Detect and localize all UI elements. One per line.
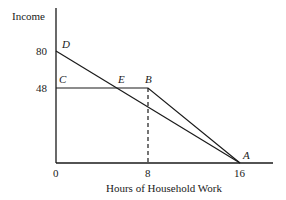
x-axis-label: Hours of Household Work: [106, 183, 222, 194]
point-label-c: C: [59, 74, 66, 85]
point-label-d: D: [62, 39, 70, 50]
y-tick-48: 48: [36, 83, 47, 94]
x-tick-8: 8: [145, 168, 151, 179]
y-tick-80: 80: [36, 46, 47, 57]
point-label-b: B: [145, 74, 152, 85]
x-tick-0: 0: [53, 168, 59, 179]
y-axis-label: Income: [12, 11, 45, 22]
point-label-e: E: [118, 74, 125, 85]
point-label-a: A: [243, 150, 250, 161]
x-tick-16: 16: [234, 168, 245, 179]
